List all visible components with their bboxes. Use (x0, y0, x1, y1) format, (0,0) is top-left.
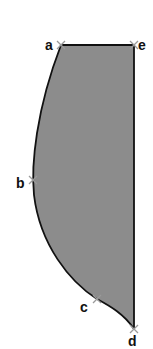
point-c-label: c (80, 299, 88, 315)
shaded-region-diagram: a b c d e (0, 0, 153, 349)
point-e-label: e (138, 37, 146, 53)
shaded-region (33, 45, 134, 329)
point-b-label: b (16, 175, 25, 191)
point-a-label: a (45, 37, 53, 53)
point-d-label: d (128, 333, 137, 349)
